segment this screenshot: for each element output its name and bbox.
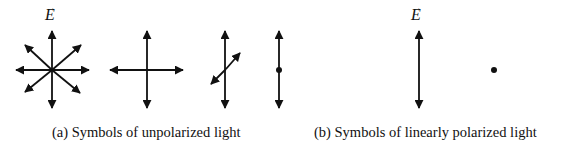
unpolarized-vertical-diagonal-symbol <box>211 31 240 108</box>
vector-arrow-icon: → <box>46 2 56 13</box>
vector-label-e-b: → E <box>411 6 421 24</box>
vector-label-e-a: → E <box>45 6 55 24</box>
caption-panel-b: (b) Symbols of linearly polarized light <box>314 124 537 141</box>
caption-panel-a: (a) Symbols of unpolarized light <box>52 124 240 141</box>
polarized-dot-symbol <box>491 67 497 73</box>
unpolarized-cross-symbol <box>110 31 183 108</box>
unpolarized-star-symbol <box>16 31 89 108</box>
vector-arrow-icon: → <box>412 2 422 13</box>
unpolarized-vertical-dot-symbol <box>276 31 282 108</box>
